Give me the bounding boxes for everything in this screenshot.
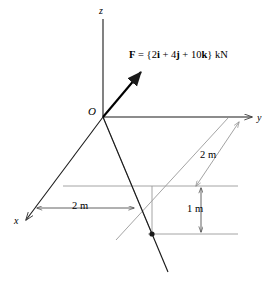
x-axis	[26, 117, 103, 220]
z-axis-label: z	[99, 6, 103, 16]
x-axis-label: x	[14, 216, 18, 226]
force-vector-diagram: z y x O F = {2i + 4j + 10k} kN 2 m 2 m 1…	[0, 0, 274, 292]
force-label-plus-two: + 10	[180, 49, 202, 60]
dimension-y-label: 2 m	[200, 150, 216, 161]
force-vector-arrow	[103, 72, 141, 117]
force-label: F = {2i + 4j + 10k} kN	[129, 50, 228, 61]
force-label-unit: } kN	[207, 49, 228, 60]
point-marker	[149, 231, 154, 236]
origin-label: O	[88, 106, 96, 117]
dimension-z-label: 1 m	[187, 204, 203, 215]
force-label-plus-one: + 4	[160, 49, 176, 60]
dimension-x-label: 2 m	[72, 201, 88, 212]
force-vector-group	[103, 72, 141, 117]
construction-diagonal-far	[116, 118, 228, 240]
force-label-equals: = {2	[135, 49, 156, 60]
diagram-canvas	[0, 0, 274, 292]
y-axis-label: y	[257, 113, 261, 123]
